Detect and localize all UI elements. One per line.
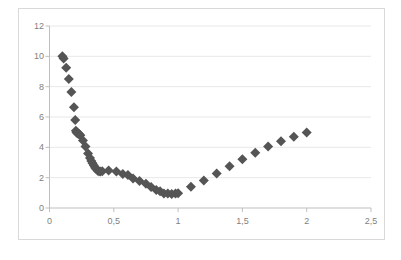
x-axis-tick-label: 2,5 — [351, 216, 391, 226]
y-axis-tick-label: 10 — [14, 51, 44, 61]
data-point — [302, 127, 312, 137]
data-point — [289, 132, 299, 142]
data-point — [104, 165, 114, 175]
data-point — [64, 74, 74, 84]
data-point — [263, 142, 273, 152]
data-point — [225, 161, 235, 171]
y-axis-tick-label: 12 — [14, 21, 44, 31]
data-point — [250, 148, 260, 158]
data-point — [61, 63, 71, 73]
y-axis-tick-label: 8 — [14, 82, 44, 92]
x-axis-tick-label: 0 — [30, 216, 70, 226]
data-point — [237, 154, 247, 164]
x-axis-tick-label: 2 — [287, 216, 327, 226]
y-axis-tick-label: 0 — [14, 203, 44, 213]
data-point — [69, 102, 79, 112]
y-axis-tick-label: 6 — [14, 112, 44, 122]
y-axis-tick-label: 4 — [14, 142, 44, 152]
x-axis-tick-label: 1,5 — [222, 216, 262, 226]
scatter-chart: 02468101200,511,522,5 — [0, 0, 401, 260]
data-point — [212, 168, 222, 178]
data-point — [199, 175, 209, 185]
x-axis-tick-label: 0,5 — [94, 216, 134, 226]
x-axis-tick-label: 1 — [158, 216, 198, 226]
data-point — [276, 136, 286, 146]
data-point — [186, 182, 196, 192]
data-point — [66, 87, 76, 97]
y-axis-tick-label: 2 — [14, 173, 44, 183]
